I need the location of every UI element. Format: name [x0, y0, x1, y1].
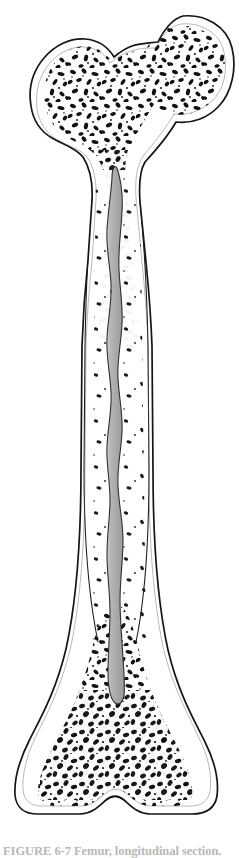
figure-root: FIGURE 6-7 Femur, longitudinal section. [0, 0, 239, 858]
femur-longitudinal-section-illustration [0, 0, 239, 858]
